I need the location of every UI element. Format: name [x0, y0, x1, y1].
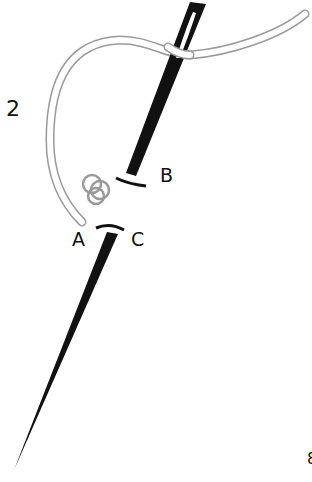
- step-number: 2: [6, 98, 20, 120]
- embroidery-illustration: [0, 0, 312, 482]
- label-c: C: [131, 230, 144, 249]
- knot: [83, 175, 109, 204]
- needle-upper: [116, 2, 206, 186]
- edge-mark: 8: [307, 451, 312, 467]
- label-a: A: [72, 230, 85, 249]
- label-b: B: [160, 166, 173, 185]
- needle-lower: [14, 225, 124, 470]
